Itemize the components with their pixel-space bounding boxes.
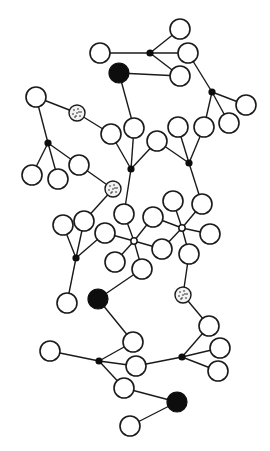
hollow-junction-icon	[131, 238, 137, 244]
open-node-icon	[219, 113, 239, 133]
open-node-icon	[147, 131, 167, 151]
open-node-icon	[114, 204, 134, 224]
dotted-node-icon	[175, 287, 191, 303]
open-node-icon	[178, 43, 198, 63]
open-node-icon	[170, 66, 190, 86]
open-node-icon	[126, 356, 146, 376]
dotted-node-icon	[69, 105, 85, 121]
node-layer	[22, 19, 256, 436]
open-node-icon	[200, 224, 220, 244]
open-node-icon	[163, 191, 183, 211]
open-node-icon	[192, 194, 212, 214]
open-node-icon	[95, 223, 115, 243]
open-node-icon	[57, 293, 77, 313]
filled-node-icon	[167, 392, 187, 412]
open-node-icon	[26, 87, 46, 107]
open-node-icon	[152, 239, 172, 259]
open-node-icon	[90, 43, 110, 63]
open-node-icon	[124, 118, 144, 138]
junction-dot-icon	[44, 139, 51, 146]
dotted-node-icon	[105, 181, 121, 197]
open-node-icon	[236, 95, 256, 115]
junction-dot-icon	[185, 159, 192, 166]
open-node-icon	[170, 19, 190, 39]
open-node-icon	[22, 165, 42, 185]
open-node-icon	[123, 332, 143, 352]
hollow-junction-icon	[179, 225, 185, 231]
junction-dot-icon	[146, 49, 153, 56]
junction-dot-icon	[178, 353, 185, 360]
filled-node-icon	[109, 63, 129, 83]
open-node-icon	[101, 124, 121, 144]
open-node-icon	[69, 155, 89, 175]
open-node-icon	[40, 341, 60, 361]
open-node-icon	[199, 316, 219, 336]
open-node-icon	[179, 244, 199, 264]
open-node-icon	[168, 117, 188, 137]
junction-dot-icon	[127, 165, 134, 172]
junction-dot-icon	[72, 254, 79, 261]
open-node-icon	[143, 207, 163, 227]
open-node-icon	[132, 259, 152, 279]
open-node-icon	[114, 378, 134, 398]
network-diagram	[0, 0, 270, 451]
open-node-icon	[105, 252, 125, 272]
open-node-icon	[210, 338, 230, 358]
open-node-icon	[53, 215, 73, 235]
open-node-icon	[48, 169, 68, 189]
open-node-icon	[120, 416, 140, 436]
open-node-icon	[208, 361, 228, 381]
junction-dot-icon	[208, 88, 215, 95]
filled-node-icon	[88, 289, 108, 309]
junction-dot-icon	[95, 357, 102, 364]
open-node-icon	[74, 211, 94, 231]
open-node-icon	[194, 117, 214, 137]
